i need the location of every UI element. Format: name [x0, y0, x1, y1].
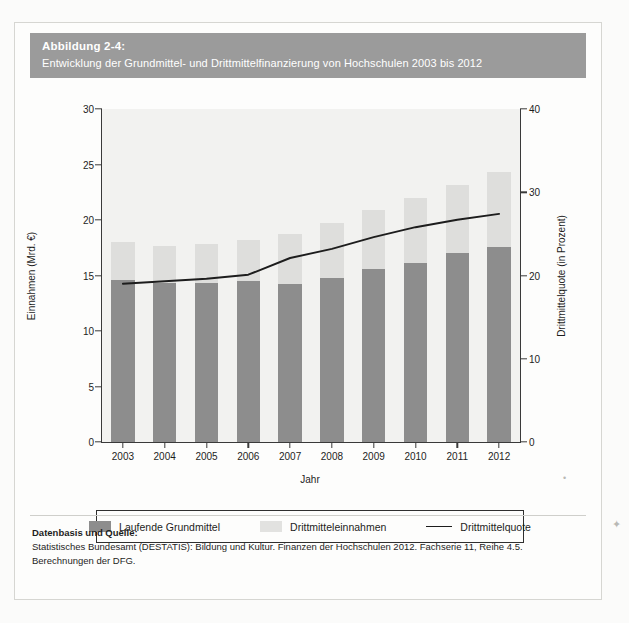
- plot-area: 051015202530 010203040 20032004200520062…: [101, 109, 521, 443]
- y-axis-title-right-text: Drittmittelquote (in Prozent): [556, 215, 567, 337]
- x-tick-label-2009: 2009: [363, 451, 385, 462]
- x-tick-mark-2004: [164, 442, 165, 448]
- source-note: Datenbasis und Quelle: Statistisches Bun…: [32, 526, 588, 568]
- y-tick-label-left-15: 15: [83, 270, 102, 281]
- x-tick-mark-2006: [248, 442, 249, 448]
- chart-panel: Einnahmen (Mrd. €) Drittmittelquote (in …: [30, 85, 586, 500]
- y-tick-label-right-40: 40: [520, 104, 540, 115]
- y-axis-title-left-text: Einnahmen (Mrd. €): [26, 231, 37, 319]
- x-tick-mark-2012: [498, 442, 499, 448]
- x-tick-label-2008: 2008: [321, 451, 343, 462]
- y-tick-label-right-10: 10: [520, 353, 540, 364]
- y-tick-label-right-30: 30: [520, 187, 540, 198]
- x-tick-mark-2008: [331, 442, 332, 448]
- x-tick-mark-2007: [289, 442, 290, 448]
- y-tick-label-left-20: 20: [83, 215, 102, 226]
- scan-speck-outer: ✦: [612, 518, 621, 531]
- y-tick-label-left-30: 30: [83, 104, 102, 115]
- figure-number-label: Abbildung 2-4:: [42, 39, 574, 54]
- figure-header-banner: Abbildung 2-4: Entwicklung der Grundmitt…: [30, 33, 586, 78]
- x-tick-label-2004: 2004: [154, 451, 176, 462]
- source-line-1: Statistisches Bundesamt (DESTATIS): Bild…: [32, 540, 588, 554]
- x-tick-mark-2009: [373, 442, 374, 448]
- x-tick-mark-2011: [457, 442, 458, 448]
- x-tick-label-2003: 2003: [112, 451, 134, 462]
- x-tick-mark-2003: [122, 442, 123, 448]
- x-tick-label-2007: 2007: [279, 451, 301, 462]
- x-tick-mark-2010: [415, 442, 416, 448]
- x-tick-label-2011: 2011: [447, 451, 469, 462]
- y-tick-label-left-0: 0: [88, 437, 102, 448]
- source-line-2: Berechnungen der DFG.: [32, 554, 588, 568]
- y-tick-label-right-20: 20: [520, 270, 540, 281]
- scan-speck: •: [563, 473, 566, 483]
- y-axis-title-right: Drittmittelquote (in Prozent): [554, 109, 568, 442]
- figure-subtitle: Entwicklung der Grundmittel- und Drittmi…: [42, 56, 574, 71]
- x-axis-title: Jahr: [101, 474, 519, 485]
- footer-divider: [30, 515, 586, 516]
- y-axis-title-left: Einnahmen (Mrd. €): [24, 109, 38, 442]
- drittmittelquote-line: [102, 109, 520, 442]
- source-heading: Datenbasis und Quelle:: [32, 526, 588, 540]
- x-tick-label-2010: 2010: [404, 451, 426, 462]
- figure-card: Abbildung 2-4: Entwicklung der Grundmitt…: [14, 22, 602, 600]
- x-tick-label-2005: 2005: [195, 451, 217, 462]
- x-tick-label-2006: 2006: [237, 451, 259, 462]
- y-tick-label-left-25: 25: [83, 159, 102, 170]
- y-tick-label-right-0: 0: [520, 437, 535, 448]
- x-tick-mark-2005: [206, 442, 207, 448]
- y-tick-label-left-10: 10: [83, 326, 102, 337]
- x-tick-label-2012: 2012: [488, 451, 510, 462]
- y-tick-label-left-5: 5: [88, 381, 102, 392]
